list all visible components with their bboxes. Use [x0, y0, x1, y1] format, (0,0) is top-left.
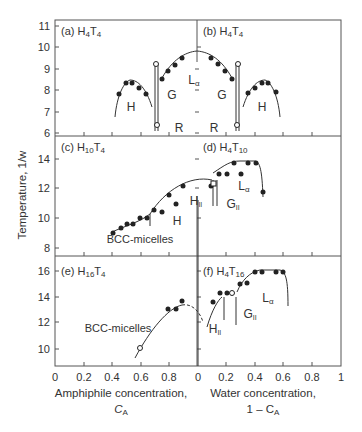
panel-title-d: (d) H4T10: [203, 141, 248, 155]
svg-text:0.6: 0.6: [275, 371, 290, 383]
svg-text:GII: GII: [226, 197, 239, 211]
svg-text:0.6: 0.6: [133, 371, 148, 383]
svg-text:14: 14: [38, 153, 50, 165]
svg-text:11: 11: [39, 20, 50, 32]
svg-text:8: 8: [44, 242, 50, 254]
y-axis-label: Temperature, 1/w: [16, 150, 28, 240]
panel-title-a: (a) H4T4: [61, 25, 102, 39]
svg-text:10: 10: [38, 212, 50, 224]
phase-boundaries: [112, 51, 288, 366]
svg-text:R: R: [210, 121, 219, 135]
svg-text:8: 8: [44, 84, 50, 96]
svg-text:0.8: 0.8: [161, 371, 176, 383]
svg-text:9: 9: [44, 63, 50, 75]
svg-text:10: 10: [38, 41, 50, 53]
svg-text:0.2: 0.2: [76, 371, 91, 383]
panel-title-b: (b) H4T4: [203, 25, 244, 39]
svg-text:G: G: [217, 88, 226, 102]
svg-text:H: H: [173, 214, 182, 228]
left-xlabel-var: CA: [114, 403, 128, 417]
svg-text:12: 12: [38, 182, 50, 194]
left-xlabel: Amphiphile concentration,: [55, 387, 187, 399]
right-xlabel: Water concentration,: [210, 387, 316, 399]
svg-text:H: H: [127, 100, 136, 114]
svg-text:0.4: 0.4: [104, 371, 119, 383]
svg-text:R: R: [175, 121, 184, 135]
svg-text:GII: GII: [243, 307, 256, 321]
svg-text:0: 0: [195, 371, 201, 383]
svg-text:HII: HII: [209, 322, 222, 336]
right-xlabel-var: 1 – CA: [247, 403, 281, 417]
svg-text:1: 1: [338, 371, 344, 383]
svg-text:16: 16: [38, 265, 50, 277]
svg-text:Lα: Lα: [238, 179, 250, 194]
svg-text:12: 12: [38, 316, 50, 328]
svg-text:14: 14: [38, 291, 50, 303]
panel-title-f: (f) H4T16: [203, 265, 245, 279]
svg-text:HII: HII: [190, 194, 203, 208]
svg-text:7: 7: [44, 106, 50, 118]
phase-labels: H H G G R R Lα H HII GII Lα BCC-micelles…: [85, 73, 274, 336]
svg-text:BCC-micelles: BCC-micelles: [85, 322, 152, 334]
x-tick-labels: 0 0.2 0.4 0.6 0.8 0 0.2 0.4 0.6 0.8 1: [52, 371, 344, 383]
svg-text:0: 0: [52, 371, 58, 383]
svg-text:10: 10: [38, 343, 50, 355]
y-tick-labels: 11 10 9 8 7 6 14 12 10 8 16 14 12 10: [38, 20, 50, 355]
y-ticks: [55, 26, 201, 349]
svg-text:Lα: Lα: [188, 73, 200, 88]
svg-text:0.2: 0.2: [218, 371, 233, 383]
phase-diagram-figure: 11 10 9 8 7 6 14 12 10 8 16 14 12 10 Tem…: [0, 0, 362, 432]
svg-text:G: G: [167, 88, 176, 102]
svg-text:BCC-micelles: BCC-micelles: [107, 233, 174, 245]
svg-text:6: 6: [44, 127, 50, 139]
panel-title-c: (c) H10T4: [61, 141, 105, 155]
panel-title-e: (e) H16T4: [61, 265, 106, 279]
svg-text:Lα: Lα: [262, 291, 274, 306]
x-axis-labels: Amphiphile concentration, CA Water conce…: [55, 387, 316, 417]
svg-text:0.8: 0.8: [304, 371, 319, 383]
svg-text:0.4: 0.4: [247, 371, 262, 383]
svg-text:H: H: [258, 100, 267, 114]
